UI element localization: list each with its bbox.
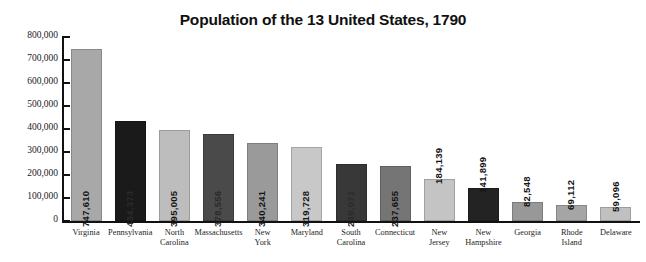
y-axis-tick-label: 100,000 (0, 191, 58, 203)
bar-value-label: 319,728 (300, 191, 311, 227)
x-axis-category-label: Delaware (589, 228, 643, 238)
y-axis-tick-label: 500,000 (0, 99, 58, 111)
y-axis-tick-label-text: 800,000 (2, 30, 58, 40)
bar-value-label: 340,241 (256, 191, 267, 227)
y-axis-tick-label: 200,000 (0, 168, 58, 180)
y-axis-tick-label-text: 400,000 (2, 122, 58, 132)
bar-value-label: 69,112 (565, 180, 576, 210)
bar-value-label: 59,096 (610, 182, 621, 213)
y-axis-tick-label: 300,000 (0, 145, 58, 157)
bar-chart: Population of the 13 United States, 1790… (0, 0, 646, 262)
category-label-line-1: Delaware (589, 228, 643, 238)
bar-value-label: 141,899 (477, 157, 488, 193)
y-axis-tick-label-text: 200,000 (2, 168, 58, 178)
chart-title: Population of the 13 United States, 1790 (0, 11, 646, 29)
bar-value-label: 395,005 (168, 191, 179, 227)
bar (468, 188, 499, 221)
y-axis-tick-label-text: 300,000 (2, 145, 58, 155)
y-axis-tick-label-text: 700,000 (2, 53, 58, 63)
y-axis-tick-label: 0 (0, 214, 58, 226)
y-axis-tick-label: 700,000 (0, 53, 58, 65)
category-label-line-2: Carolina (147, 238, 201, 248)
y-axis-tick-label: 600,000 (0, 76, 58, 88)
category-label-line-2: Island (545, 238, 599, 248)
bar-value-label: 237,655 (389, 191, 400, 227)
bar-value-label: 184,139 (433, 147, 444, 183)
y-axis-tick-label-text: 100,000 (2, 191, 58, 201)
bar-value-label: 434,373 (124, 191, 135, 227)
y-axis-tick-label-text: 600,000 (2, 76, 58, 86)
y-axis-tick-label-text: 0 (2, 214, 58, 224)
bar-value-label: 378,556 (212, 191, 223, 227)
category-label-line-2: York (236, 238, 290, 248)
category-label-line-2: Carolina (324, 238, 378, 248)
y-axis-tick-label: 400,000 (0, 122, 58, 134)
y-axis-tick-label: 800,000 (0, 30, 58, 42)
bar (424, 179, 455, 221)
bar-value-label: 747,610 (80, 191, 91, 227)
bar-value-label: 249,073 (345, 191, 356, 227)
category-label-line-2: Hampshire (456, 238, 510, 248)
y-axis-tick-label-text: 500,000 (2, 99, 58, 109)
bar-value-label: 82,548 (521, 176, 532, 207)
